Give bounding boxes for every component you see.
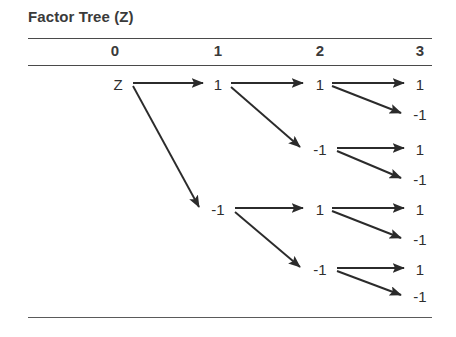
tree-edge [332, 86, 401, 113]
tree-node: 1 [398, 200, 442, 220]
column-header-3: 3 [400, 42, 440, 59]
tree-edge [133, 86, 199, 207]
tree-node: 1 [398, 140, 442, 160]
rule-under-columns [28, 65, 432, 66]
tree-node: Z [96, 75, 140, 95]
tree-edge [337, 151, 401, 178]
column-header-2: 2 [300, 42, 340, 59]
column-header-0: 0 [95, 42, 135, 59]
tree-node: -1 [398, 230, 442, 250]
tree-node: -1 [196, 200, 240, 220]
tree-node: 1 [398, 260, 442, 280]
rule-under-title [28, 38, 432, 39]
tree-edge [231, 87, 300, 147]
tree-edge [337, 271, 401, 295]
tree-node: -1 [298, 140, 342, 160]
column-header-1: 1 [198, 42, 238, 59]
rule-bottom [28, 317, 432, 318]
tree-edge [235, 212, 300, 267]
tree-node: -1 [398, 170, 442, 190]
figure-title: Factor Tree (Z) [28, 8, 134, 25]
tree-edge [332, 211, 401, 238]
tree-node: 1 [196, 75, 240, 95]
tree-node: -1 [398, 287, 442, 307]
factor-tree-figure: Factor Tree (Z) 0 1 2 3 Z1-11-11-11-11-1… [0, 0, 456, 337]
tree-node: 1 [398, 75, 442, 95]
tree-node: -1 [298, 260, 342, 280]
tree-node: 1 [298, 200, 342, 220]
tree-node: 1 [298, 75, 342, 95]
tree-node: -1 [398, 105, 442, 125]
